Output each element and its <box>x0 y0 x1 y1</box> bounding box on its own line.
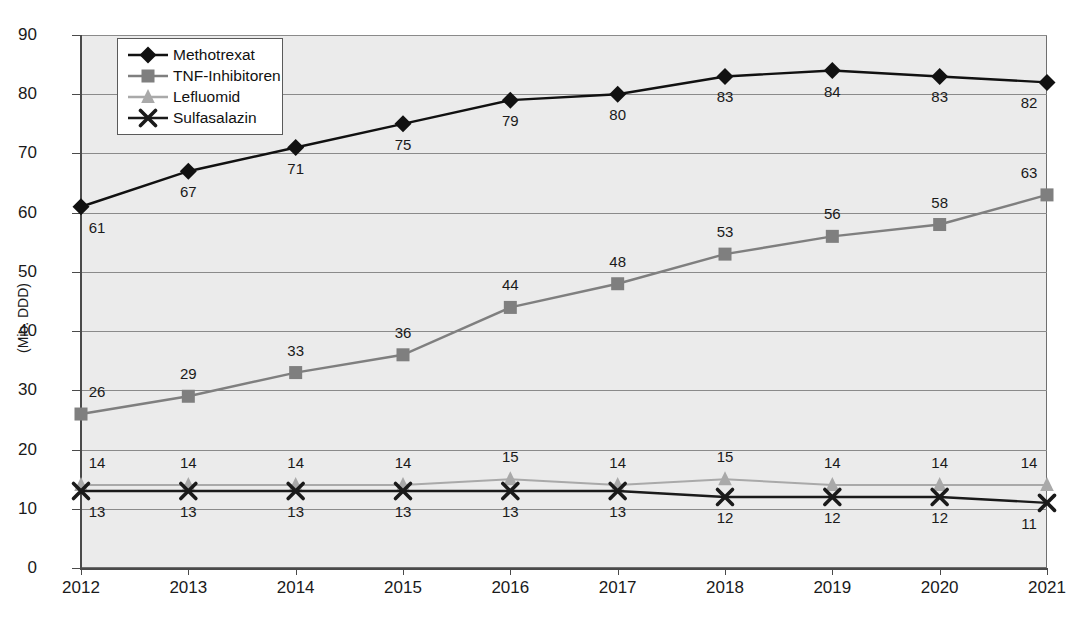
data-label: 33 <box>287 342 304 359</box>
diamond-marker <box>140 46 157 63</box>
data-label: 14 <box>180 454 197 471</box>
data-label: 14 <box>1021 454 1038 471</box>
data-label: 67 <box>180 183 197 200</box>
square-marker <box>1041 188 1054 201</box>
data-label: 12 <box>717 509 734 526</box>
data-label: 13 <box>89 503 106 520</box>
square-marker <box>142 69 155 82</box>
data-label: 14 <box>395 454 412 471</box>
data-label: 11 <box>1021 515 1037 532</box>
data-label: 83 <box>717 88 734 105</box>
series-lefluomid <box>74 471 1054 491</box>
square-marker <box>289 366 302 379</box>
series-sulfasalazin <box>74 484 1055 511</box>
data-label: 14 <box>287 454 304 471</box>
chart-container: 0102030405060708090 20122013201420152016… <box>0 0 1092 620</box>
diamond-marker <box>73 198 90 215</box>
square-marker <box>719 248 732 261</box>
diamond-marker <box>395 115 412 132</box>
data-label: 13 <box>287 503 304 520</box>
series-line <box>81 491 1047 503</box>
square-marker <box>933 218 946 231</box>
legend-item-methotrexat[interactable]: Methotrexat <box>126 44 274 65</box>
diamond-marker <box>824 62 841 79</box>
data-label: 80 <box>609 106 626 123</box>
square-marker <box>504 301 517 314</box>
data-label: 14 <box>931 454 948 471</box>
cross-icon <box>126 108 170 128</box>
data-label: 53 <box>717 223 734 240</box>
data-label: 79 <box>502 112 519 129</box>
legend-label: Lefluomid <box>173 88 240 106</box>
triangle-marker <box>504 471 518 485</box>
data-label: 13 <box>395 503 412 520</box>
data-label: 84 <box>824 83 841 100</box>
data-label: 82 <box>1021 94 1038 111</box>
legend-item-sulfasalazin[interactable]: Sulfasalazin <box>126 107 274 128</box>
legend-label: TNF-Inhibitoren <box>173 67 281 85</box>
series-line <box>81 479 1047 485</box>
data-label: 14 <box>824 454 841 471</box>
data-label: 14 <box>89 454 106 471</box>
series-line <box>81 195 1047 414</box>
series-tnf-inhibitoren <box>75 188 1054 420</box>
diamond-marker <box>717 68 734 85</box>
square-marker <box>611 277 624 290</box>
square-marker <box>826 230 839 243</box>
data-label: 15 <box>717 448 734 465</box>
data-label: 56 <box>824 205 841 222</box>
diamond-marker <box>931 68 948 85</box>
legend-item-lefluomid[interactable]: Lefluomid <box>126 86 274 107</box>
data-label: 26 <box>89 383 106 400</box>
data-label: 75 <box>395 136 412 153</box>
data-label: 13 <box>502 503 519 520</box>
diamond-marker <box>502 92 519 109</box>
legend-label: Sulfasalazin <box>173 109 257 127</box>
square-marker <box>182 390 195 403</box>
data-label: 36 <box>395 324 412 341</box>
data-label: 48 <box>609 253 626 270</box>
data-label: 29 <box>180 365 197 382</box>
data-label: 12 <box>931 509 948 526</box>
legend-label: Methotrexat <box>173 46 255 64</box>
data-label: 44 <box>502 276 519 293</box>
square-marker <box>75 408 88 421</box>
data-label: 58 <box>931 194 948 211</box>
diamond-marker <box>1039 74 1056 91</box>
diamond-icon <box>126 45 170 65</box>
data-label: 83 <box>931 88 948 105</box>
data-label: 14 <box>609 454 626 471</box>
data-label: 12 <box>824 509 841 526</box>
data-label: 13 <box>609 503 626 520</box>
square-marker <box>397 348 410 361</box>
diamond-marker <box>609 86 626 103</box>
legend-item-tnf-inhibitoren[interactable]: TNF-Inhibitoren <box>126 65 274 86</box>
data-label: 63 <box>1021 164 1038 181</box>
legend: MethotrexatTNF-InhibitorenLefluomidSulfa… <box>117 38 283 135</box>
diamond-marker <box>287 139 304 156</box>
data-label: 13 <box>180 503 197 520</box>
diamond-marker <box>180 163 197 180</box>
data-label: 15 <box>502 448 519 465</box>
triangle-marker <box>718 471 732 485</box>
triangle-icon <box>126 87 170 107</box>
data-label: 71 <box>287 160 304 177</box>
data-label: 61 <box>89 219 106 236</box>
square-icon <box>126 66 170 86</box>
